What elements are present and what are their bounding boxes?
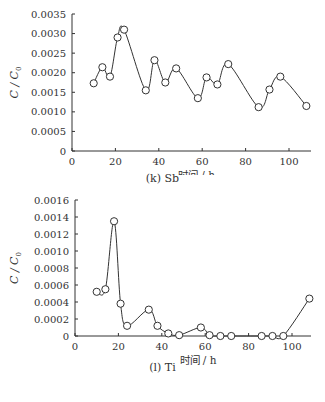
- data-point-marker: [110, 218, 117, 225]
- y-tick-label: 0.0010: [34, 246, 69, 257]
- data-point-marker: [225, 61, 232, 68]
- data-point-marker: [197, 324, 204, 331]
- x-tick-label: 20: [109, 156, 122, 167]
- data-point-marker: [154, 322, 161, 329]
- data-point-marker: [258, 332, 265, 339]
- y-tick-label: 0.0008: [34, 263, 69, 274]
- data-point-marker: [173, 65, 180, 72]
- chart-sb-caption: (k) Sb: [0, 172, 325, 185]
- y-tick-label: 0.0035: [31, 9, 66, 20]
- data-point-marker: [255, 104, 262, 111]
- data-point-marker: [303, 102, 310, 109]
- data-point-marker: [151, 57, 158, 64]
- y-tick-label: 0.0020: [31, 67, 66, 78]
- x-tick-label: 0: [72, 341, 78, 352]
- data-point-marker: [142, 87, 149, 94]
- y-tick-label: 0: [60, 146, 66, 157]
- data-point-marker: [99, 64, 106, 71]
- x-tick-label: 40: [155, 341, 168, 352]
- axes: 00.00050.00100.00150.00200.00250.00300.0…: [8, 9, 311, 176]
- data-point-marker: [165, 330, 172, 337]
- data-point-marker: [123, 322, 130, 329]
- y-tick-label: 0: [63, 331, 69, 342]
- x-tick-label: 60: [196, 156, 209, 167]
- y-tick-label: 0.0004: [34, 297, 69, 308]
- y-tick-label: 0.0030: [31, 28, 66, 39]
- y-tick-label: 0.0016: [34, 195, 69, 206]
- data-point-marker: [217, 332, 224, 339]
- data-point-marker: [306, 295, 313, 302]
- data-point-marker: [162, 79, 169, 86]
- x-tick-label: 80: [242, 341, 255, 352]
- data-point-marker: [102, 286, 109, 293]
- y-tick-label: 0.0006: [34, 280, 69, 291]
- chart-sb-panel: 00.00050.00100.00150.00200.00250.00300.0…: [0, 0, 325, 190]
- x-tick-label: 80: [239, 156, 252, 167]
- data-point-marker: [106, 73, 113, 80]
- y-tick-label: 0.0005: [31, 126, 66, 137]
- data-point-marker: [117, 300, 124, 307]
- y-axis-label: C / C0: [8, 252, 23, 284]
- y-tick-label: 0.0012: [34, 229, 69, 240]
- chart-ti-panel: 00.00020.00040.00060.00080.00100.00120.0…: [0, 190, 325, 402]
- data-point-marker: [214, 81, 221, 88]
- data-point-marker: [176, 332, 183, 339]
- data-point-marker: [145, 306, 152, 313]
- x-tick-label: 0: [69, 156, 75, 167]
- data-point-marker: [203, 74, 210, 81]
- data-point-marker: [206, 332, 213, 339]
- y-tick-label: 0.0002: [34, 314, 69, 325]
- x-tick-label: 60: [199, 341, 212, 352]
- data-point-marker: [194, 95, 201, 102]
- chart-ti: 00.00020.00040.00060.00080.00100.00120.0…: [0, 190, 325, 365]
- y-axis-label: C / C0: [8, 66, 23, 98]
- data-point-marker: [93, 288, 100, 295]
- x-tick-label: 100: [279, 156, 298, 167]
- chart-sb: 00.00050.00100.00150.00200.00250.00300.0…: [0, 0, 325, 175]
- axes: 00.00020.00040.00060.00080.00100.00120.0…: [8, 195, 311, 366]
- y-tick-label: 0.0010: [31, 106, 66, 117]
- data-point-marker: [277, 73, 284, 80]
- series-line: [97, 221, 310, 339]
- data-point-marker: [280, 332, 287, 339]
- data-point-marker: [114, 34, 121, 41]
- x-tick-label: 40: [152, 156, 165, 167]
- data-point-marker: [228, 332, 235, 339]
- data-point-marker: [120, 26, 127, 33]
- data-point-marker: [266, 86, 273, 93]
- x-tick-label: 20: [112, 341, 125, 352]
- y-tick-label: 0.0015: [31, 87, 66, 98]
- chart-ti-caption: (l) Ti: [0, 361, 325, 374]
- y-tick-label: 0.0025: [31, 48, 66, 59]
- data-point-marker: [90, 80, 97, 87]
- x-tick-label: 100: [282, 341, 301, 352]
- y-tick-label: 0.0014: [34, 212, 69, 223]
- data-point-marker: [269, 332, 276, 339]
